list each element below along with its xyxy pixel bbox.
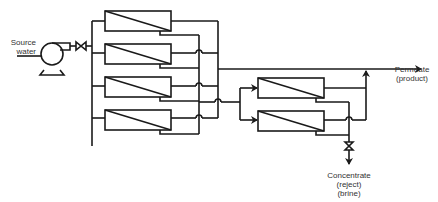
stage1-module-4: [105, 110, 171, 130]
pump-icon: [40, 43, 70, 75]
permeate-label: Permeate (product): [388, 65, 436, 83]
concentrate-valve-icon: [345, 142, 353, 150]
source-water-label: Source water: [2, 38, 36, 56]
concentrate-label-line3: (brine): [319, 189, 379, 198]
source-label-line2: water: [2, 47, 36, 56]
stage1-module-3: [105, 77, 171, 97]
stage2-module-1: [258, 78, 324, 98]
permeate-label-line2: (product): [388, 74, 436, 83]
stage1-module-2: [105, 44, 171, 64]
valve-icon: [76, 42, 86, 50]
concentrate-label: Concentrate (reject) (brine): [319, 171, 379, 198]
concentrate-label-line1: Concentrate: [319, 171, 379, 180]
source-label-line1: Source: [2, 38, 36, 47]
permeate-label-line1: Permeate: [388, 65, 436, 74]
stage1-module-1: [105, 11, 171, 31]
stage2-module-2: [258, 111, 324, 131]
concentrate-label-line2: (reject): [319, 180, 379, 189]
